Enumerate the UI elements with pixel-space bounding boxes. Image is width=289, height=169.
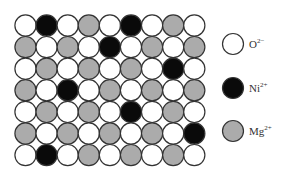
oxide-ion-icon bbox=[184, 101, 205, 122]
magnesium-ion-icon bbox=[15, 80, 36, 101]
magnesium-ion-icon bbox=[15, 123, 36, 144]
nickel-ion-icon bbox=[36, 15, 57, 36]
oxide-ion-icon bbox=[36, 37, 57, 58]
nickel-ion-icon bbox=[120, 15, 141, 36]
oxide-ion-label: O2− bbox=[249, 37, 264, 50]
magnesium-ion-icon bbox=[36, 101, 57, 122]
magnesium-ion-icon bbox=[36, 58, 57, 79]
magnesium-ion-icon bbox=[142, 37, 163, 58]
oxide-ion-icon bbox=[99, 101, 120, 122]
nickel-ion-icon bbox=[120, 101, 141, 122]
lattice-diagram: O2− Ni2+ Mg2+ bbox=[0, 0, 289, 169]
oxide-ion-icon bbox=[99, 58, 120, 79]
nickel-ion-icon bbox=[57, 80, 78, 101]
magnesium-ion-icon bbox=[15, 37, 36, 58]
nickel-ion-label: Ni2+ bbox=[249, 81, 268, 94]
oxide-ion-icon bbox=[15, 15, 36, 36]
magnesium-ion-icon bbox=[163, 15, 184, 36]
magnesium-ion-icon bbox=[78, 15, 99, 36]
legend-item-magnesium: Mg2+ bbox=[223, 121, 272, 142]
magnesium-ion-icon bbox=[184, 37, 205, 58]
oxide-ion-icon bbox=[163, 123, 184, 144]
oxide-ion-icon bbox=[184, 15, 205, 36]
magnesium-ion-icon bbox=[99, 80, 120, 101]
oxide-ion-icon bbox=[36, 123, 57, 144]
oxide-ion-icon bbox=[57, 15, 78, 36]
oxide-ion-icon bbox=[15, 145, 36, 166]
magnesium-ion-label: Mg2+ bbox=[249, 124, 272, 137]
oxide-ion-icon bbox=[163, 80, 184, 101]
oxide-ion-icon bbox=[142, 145, 163, 166]
oxide-ion-icon bbox=[163, 37, 184, 58]
oxide-ion-icon bbox=[184, 145, 205, 166]
oxide-ion-icon bbox=[142, 101, 163, 122]
legend-item-oxide: O2− bbox=[223, 34, 265, 55]
magnesium-ion-icon bbox=[120, 58, 141, 79]
magnesium-ion-icon bbox=[142, 123, 163, 144]
oxide-ion-icon bbox=[142, 58, 163, 79]
magnesium-ion-icon bbox=[184, 80, 205, 101]
oxide-ion-icon bbox=[57, 101, 78, 122]
oxide-ion-icon bbox=[57, 58, 78, 79]
oxide-ion-icon bbox=[15, 101, 36, 122]
oxide-ion-icon bbox=[120, 37, 141, 58]
legend-item-nickel: Ni2+ bbox=[223, 78, 268, 99]
magnesium-ion-swatch-icon bbox=[223, 121, 244, 142]
magnesium-ion-icon bbox=[163, 145, 184, 166]
oxide-ion-icon bbox=[99, 145, 120, 166]
magnesium-ion-icon bbox=[78, 145, 99, 166]
oxide-ion-icon bbox=[99, 15, 120, 36]
oxide-ion-icon bbox=[142, 15, 163, 36]
legend: O2− Ni2+ Mg2+ bbox=[223, 34, 272, 142]
oxide-ion-icon bbox=[78, 123, 99, 144]
magnesium-ion-icon bbox=[78, 58, 99, 79]
oxide-ion-icon bbox=[36, 80, 57, 101]
nickel-ion-icon bbox=[163, 58, 184, 79]
magnesium-ion-icon bbox=[120, 145, 141, 166]
oxide-ion-icon bbox=[78, 80, 99, 101]
oxide-ion-icon bbox=[184, 58, 205, 79]
magnesium-ion-icon bbox=[78, 101, 99, 122]
oxide-ion-icon bbox=[78, 37, 99, 58]
magnesium-ion-icon bbox=[163, 101, 184, 122]
nickel-ion-icon bbox=[99, 37, 120, 58]
oxide-ion-swatch-icon bbox=[223, 34, 244, 55]
ion-lattice-grid bbox=[15, 15, 205, 166]
magnesium-ion-icon bbox=[99, 123, 120, 144]
magnesium-ion-icon bbox=[57, 123, 78, 144]
nickel-ion-icon bbox=[184, 123, 205, 144]
oxide-ion-icon bbox=[15, 58, 36, 79]
nickel-ion-icon bbox=[36, 145, 57, 166]
oxide-ion-icon bbox=[120, 80, 141, 101]
magnesium-ion-icon bbox=[57, 37, 78, 58]
oxide-ion-icon bbox=[120, 123, 141, 144]
magnesium-ion-icon bbox=[142, 80, 163, 101]
oxide-ion-icon bbox=[57, 145, 78, 166]
nickel-ion-swatch-icon bbox=[223, 78, 244, 99]
